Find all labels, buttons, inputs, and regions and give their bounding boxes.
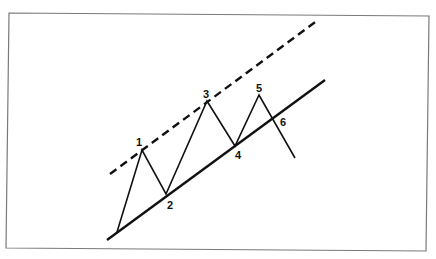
point-label-5: 5 xyxy=(256,82,262,94)
point-label-6: 6 xyxy=(280,116,286,128)
point-label-2: 2 xyxy=(167,199,173,211)
trend-channel-diagram: 1 2 3 4 5 6 xyxy=(0,0,436,259)
point-label-4: 4 xyxy=(235,149,242,161)
point-label-1: 1 xyxy=(136,136,142,148)
frame-border xyxy=(6,13,429,251)
price-path xyxy=(117,95,295,232)
point-label-3: 3 xyxy=(203,88,209,100)
